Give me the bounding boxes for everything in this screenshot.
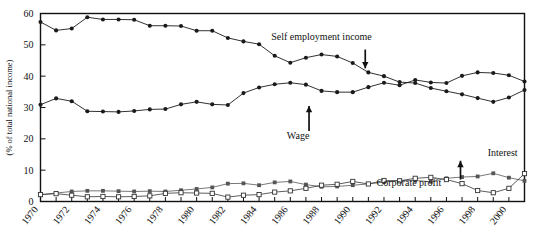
datapoint-self-employment-income-1982 (226, 36, 230, 40)
annotation-label-self-employment-income: Self employment income (271, 31, 372, 42)
x-tick-label-1982: 1982 (206, 204, 227, 227)
datapoint-wage-1973 (85, 109, 89, 113)
y-tick-label-60: 60 (24, 8, 34, 19)
y-tick-label-50: 50 (24, 39, 34, 50)
datapoint-self-employment-income-1996 (444, 89, 448, 93)
datapoint-self-employment-income-1970 (38, 20, 42, 24)
datapoint-interest-2001 (523, 179, 527, 183)
datapoint-wage-1976 (132, 109, 136, 113)
datapoint-corporate-profit-1998 (476, 188, 480, 192)
datapoint-wage-1988 (319, 89, 323, 93)
datapoint-wage-1998 (476, 70, 480, 74)
datapoint-interest-1984 (257, 183, 261, 187)
datapoint-self-employment-income-1975 (117, 17, 121, 21)
datapoint-corporate-profit-1981 (210, 191, 214, 195)
datapoint-corporate-profit-1971 (54, 192, 58, 196)
datapoint-self-employment-income-1997 (460, 92, 464, 96)
datapoint-corporate-profit-1991 (366, 182, 370, 186)
datapoint-wage-1989 (335, 90, 339, 94)
datapoint-self-employment-income-2000 (507, 95, 511, 99)
datapoint-self-employment-income-1990 (351, 61, 355, 65)
datapoint-wage-1985 (273, 82, 277, 86)
x-tick-label-1970: 1970 (19, 204, 40, 227)
datapoint-wage-1974 (101, 110, 105, 114)
datapoint-wage-2001 (522, 79, 526, 83)
datapoint-corporate-profit-1984 (257, 193, 261, 197)
datapoint-wage-1975 (117, 110, 121, 114)
datapoint-self-employment-income-1977 (148, 24, 152, 28)
y-tick-label-20: 20 (24, 133, 34, 144)
datapoint-wage-1977 (148, 107, 152, 111)
datapoint-corporate-profit-1987 (304, 186, 308, 190)
annotation-label-corporate-profit: Corporate profit (377, 177, 442, 188)
datapoint-wage-1995 (429, 80, 433, 84)
datapoint-corporate-profit-1996 (444, 177, 448, 181)
datapoint-self-employment-income-1976 (132, 18, 136, 22)
datapoint-interest-1973 (85, 189, 89, 193)
datapoint-wage-1992 (382, 81, 386, 85)
datapoint-interest-1982 (226, 182, 230, 186)
annotation-arrow-head-self-employment-income (362, 62, 368, 68)
datapoint-corporate-profit-1972 (70, 193, 74, 197)
datapoint-interest-1999 (491, 171, 495, 175)
datapoint-self-employment-income-1995 (429, 86, 433, 90)
annotation-arrow-head-interest (457, 161, 463, 167)
datapoint-corporate-profit-1975 (116, 195, 120, 199)
datapoint-corporate-profit-1982 (226, 195, 230, 199)
datapoint-corporate-profit-1983 (241, 193, 245, 197)
datapoint-wage-1986 (288, 81, 292, 85)
x-tick-label-1988: 1988 (300, 204, 321, 227)
x-tick-label-1976: 1976 (113, 204, 134, 227)
datapoint-self-employment-income-1971 (54, 28, 58, 32)
datapoint-interest-1981 (210, 186, 214, 190)
datapoint-wage-1987 (304, 83, 308, 87)
datapoint-interest-1983 (242, 181, 246, 185)
datapoint-wage-1982 (226, 103, 230, 107)
x-tick-label-1980: 1980 (175, 204, 196, 227)
x-tick-label-2000: 2000 (487, 204, 508, 227)
datapoint-interest-1998 (476, 175, 480, 179)
datapoint-self-employment-income-1974 (101, 17, 105, 21)
datapoint-wage-1972 (70, 99, 74, 103)
datapoint-wage-1979 (179, 102, 183, 106)
datapoint-wage-1997 (460, 74, 464, 78)
datapoint-corporate-profit-1978 (163, 191, 167, 195)
datapoint-interest-2000 (507, 176, 511, 180)
datapoint-wage-1971 (54, 96, 58, 100)
datapoint-corporate-profit-1973 (85, 195, 89, 199)
datapoint-wage-1981 (210, 102, 214, 106)
datapoint-corporate-profit-1970 (38, 193, 42, 197)
datapoint-corporate-profit-1997 (460, 182, 464, 186)
datapoint-corporate-profit-2000 (507, 186, 511, 190)
datapoint-corporate-profit-1976 (132, 194, 136, 198)
y-axis-title: (% of total national income) (4, 59, 14, 155)
series-line-corporate-profit (41, 174, 525, 198)
datapoint-wage-1984 (257, 85, 261, 89)
datapoint-wage-2000 (507, 73, 511, 77)
datapoint-interest-1976 (132, 190, 136, 194)
datapoint-wage-1970 (38, 103, 42, 107)
datapoint-self-employment-income-1987 (304, 56, 308, 60)
datapoint-interest-1977 (148, 189, 152, 193)
x-tick-label-1972: 1972 (50, 204, 71, 227)
datapoint-self-employment-income-1973 (85, 15, 89, 19)
datapoint-wage-1990 (351, 90, 355, 94)
datapoint-corporate-profit-1990 (351, 179, 355, 183)
datapoint-wage-1993 (398, 83, 402, 87)
chart-container: 0102030405060(% of total national income… (0, 0, 543, 247)
datapoint-corporate-profit-1979 (179, 191, 183, 195)
datapoint-self-employment-income-1991 (366, 70, 370, 74)
datapoint-interest-1980 (195, 187, 199, 191)
datapoint-self-employment-income-1972 (70, 26, 74, 30)
datapoint-self-employment-income-1983 (241, 39, 245, 43)
datapoint-self-employment-income-1989 (335, 54, 339, 58)
datapoint-wage-1983 (241, 91, 245, 95)
datapoint-corporate-profit-1988 (319, 183, 323, 187)
y-tick-label-10: 10 (24, 165, 34, 176)
datapoint-self-employment-income-1988 (319, 52, 323, 56)
datapoint-corporate-profit-1985 (273, 190, 277, 194)
datapoint-wage-1991 (366, 85, 370, 89)
datapoint-wage-1994 (413, 78, 417, 82)
x-tick-label-1984: 1984 (238, 204, 259, 227)
y-tick-label-40: 40 (24, 71, 34, 82)
